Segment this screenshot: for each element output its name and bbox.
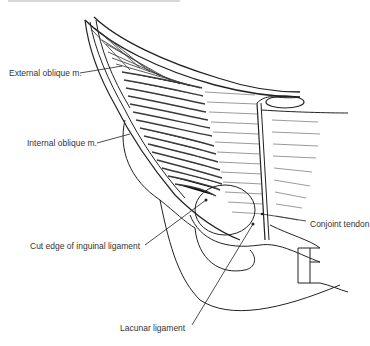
- illustration: [0, 0, 370, 346]
- label-conjoint-tendon: Conjoint tendon: [310, 219, 370, 229]
- label-lacunar-ligament: Lacunar ligament: [120, 323, 185, 333]
- label-cut-edge-inguinal-ligament: Cut edge of inguinal ligament: [30, 241, 140, 251]
- label-external-oblique: External oblique m.: [9, 68, 82, 78]
- label-internal-oblique: Internal oblique m.: [27, 138, 97, 148]
- anatomy-figure: External oblique m. Internal oblique m. …: [0, 0, 370, 346]
